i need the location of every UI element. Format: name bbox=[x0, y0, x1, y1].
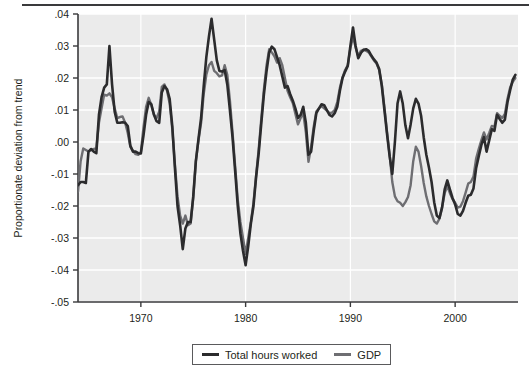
y-tick-label: .00 bbox=[54, 136, 69, 148]
y-tick-label: -.04 bbox=[51, 264, 69, 276]
x-tick-labels: 1970198019902000 bbox=[129, 312, 467, 324]
figure-root: .04.03.02.01.00-.01-.02-.03-.04-.05 1970… bbox=[0, 0, 529, 381]
y-tick-label: .02 bbox=[54, 72, 69, 84]
y-tick-label: .01 bbox=[54, 104, 69, 116]
y-tick-label: -.01 bbox=[51, 168, 69, 180]
y-tick-labels: .04.03.02.01.00-.01-.02-.03-.04-.05 bbox=[51, 8, 69, 308]
line-chart: .04.03.02.01.00-.01-.02-.03-.04-.05 1970… bbox=[0, 0, 529, 330]
y-tick-label: -.02 bbox=[51, 200, 69, 212]
legend-entry-total-hours-worked: Total hours worked bbox=[202, 349, 317, 361]
y-axis bbox=[73, 14, 78, 302]
plot-background bbox=[78, 14, 518, 302]
x-tick-label: 2000 bbox=[443, 312, 467, 324]
x-axis bbox=[78, 302, 518, 307]
legend-entry-gdp: GDP bbox=[334, 349, 381, 361]
y-axis-title: Proportionate deviation from trend bbox=[12, 78, 24, 237]
legend-label-gdp: GDP bbox=[357, 349, 381, 361]
legend-swatch-total-hours-worked bbox=[202, 353, 219, 357]
y-tick-label: -.05 bbox=[51, 296, 69, 308]
y-tick-label: .03 bbox=[54, 40, 69, 52]
y-tick-label: -.03 bbox=[51, 232, 69, 244]
legend-swatch-gdp bbox=[334, 353, 351, 357]
legend-label-total-hours-worked: Total hours worked bbox=[225, 349, 317, 361]
x-tick-label: 1990 bbox=[339, 312, 363, 324]
x-tick-label: 1970 bbox=[129, 312, 153, 324]
y-tick-label: .04 bbox=[54, 8, 69, 20]
plot-area-wrapper: .04.03.02.01.00-.01-.02-.03-.04-.05 1970… bbox=[0, 0, 529, 330]
chart-legend: Total hours worked GDP bbox=[192, 344, 391, 365]
x-tick-label: 1980 bbox=[234, 312, 258, 324]
